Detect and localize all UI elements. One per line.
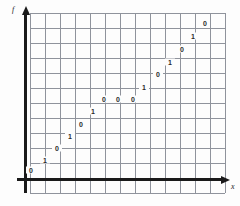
- grid-line-horizontal: [30, 73, 225, 74]
- grid-line-horizontal: [30, 118, 225, 119]
- horizontal-axis-arrow-icon: [221, 176, 230, 184]
- data-digit: 0: [99, 96, 109, 103]
- grid-line-horizontal: [30, 28, 225, 29]
- vertical-axis-arrow-icon: [22, 6, 30, 15]
- data-digit: 0: [52, 145, 62, 152]
- data-digit: 0: [26, 167, 36, 174]
- grid-line-horizontal: [30, 88, 225, 89]
- data-digit: 0: [76, 121, 86, 128]
- data-digit: 1: [88, 108, 98, 115]
- data-digit: 0: [177, 46, 187, 53]
- grid-line-horizontal: [30, 163, 225, 164]
- vertical-axis-label: f: [12, 6, 14, 14]
- grid-line-horizontal: [30, 103, 225, 104]
- data-digit: 0: [128, 96, 138, 103]
- figure-container: f x 010101000101010: [0, 0, 240, 206]
- horizontal-axis: [17, 178, 222, 181]
- data-digit: 1: [65, 133, 75, 140]
- data-digit: 1: [139, 84, 149, 91]
- grid-line-horizontal: [30, 193, 225, 194]
- data-digit: 1: [165, 59, 175, 66]
- data-digit: 0: [153, 71, 163, 78]
- plot-surface: [0, 0, 240, 206]
- data-digit: 0: [113, 96, 123, 103]
- data-digit: 0: [200, 20, 210, 27]
- data-digit: 1: [40, 157, 50, 164]
- horizontal-axis-label: x: [231, 183, 235, 191]
- grid-line-horizontal: [30, 43, 225, 44]
- grid-line-horizontal: [30, 58, 225, 59]
- grid-line-horizontal: [30, 13, 225, 14]
- grid-line-vertical: [225, 13, 226, 193]
- data-digit: 1: [188, 33, 198, 40]
- grid-line-horizontal: [30, 133, 225, 134]
